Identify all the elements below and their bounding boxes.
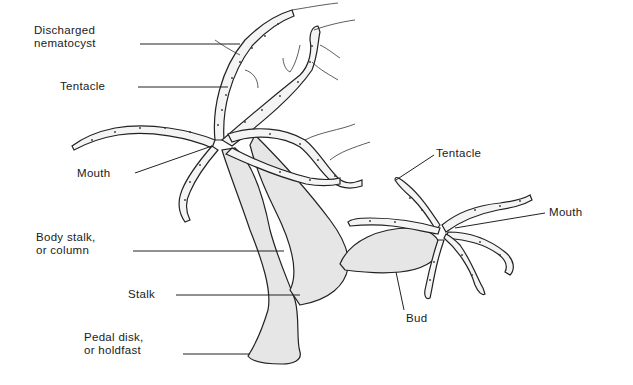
parent-tentacle-lower-left — [179, 146, 218, 222]
label-mouth-parent: Mouth — [77, 167, 110, 180]
nematocyst-thread — [292, 3, 338, 10]
label-line: nematocyst — [34, 37, 96, 50]
label-bud: Bud — [406, 312, 427, 325]
hydra-illustration — [0, 0, 633, 385]
nematocyst-thread — [215, 40, 240, 55]
label-line: or holdfast — [84, 344, 144, 357]
label-tentacle-parent: Tentacle — [60, 80, 105, 93]
bud-body — [340, 228, 440, 273]
leader-tentacle-bud — [396, 155, 434, 180]
label-tentacle-bud: Tentacle — [436, 147, 481, 160]
label-line: or column — [36, 244, 96, 257]
label-mouth-bud: Mouth — [549, 206, 582, 219]
parent-tentacle-left — [72, 126, 215, 150]
bud-tentacle-right — [446, 232, 513, 275]
label-line: Body stalk, — [36, 231, 96, 244]
label-line: Pedal disk, — [84, 331, 144, 344]
label-pedal-disk: Pedal disk, or holdfast — [84, 331, 144, 357]
label-body-stalk: Body stalk, or column — [36, 231, 96, 257]
nematocyst-thread — [245, 70, 258, 88]
nematocyst-thread — [312, 62, 338, 80]
label-discharged-nematocyst: Discharged nematocyst — [34, 24, 96, 50]
nematocyst-thread — [320, 45, 340, 58]
nematocyst-thread — [305, 124, 355, 140]
bud-tentacle-upper-right — [442, 195, 532, 232]
nematocyst-thread — [283, 45, 300, 72]
label-stalk: Stalk — [128, 288, 155, 301]
leader-bud — [396, 272, 404, 310]
nematocyst-thread — [314, 20, 355, 30]
nematocyst-thread — [330, 142, 370, 160]
label-line: Discharged — [34, 24, 96, 37]
